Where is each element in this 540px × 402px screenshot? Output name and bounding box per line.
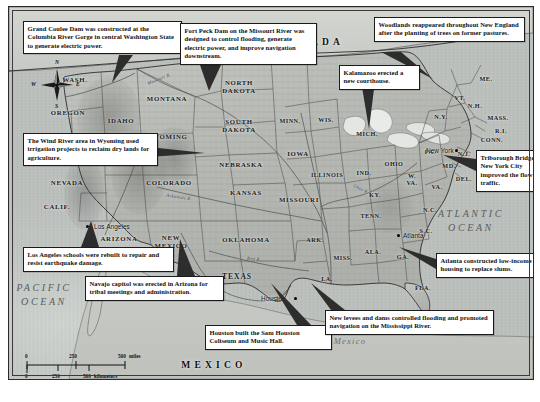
callout-kalamazoo: Kalamazoo erected a new courthouse. xyxy=(339,65,420,90)
callout-grand-coulee: Grand Coulee Dam was constructed at the … xyxy=(23,21,182,54)
scale-km-tick-250: 250 xyxy=(52,373,60,379)
scale-km-tick-0: 0 xyxy=(25,373,28,379)
compass-east-label: E xyxy=(76,81,80,87)
scale-miles-unit: miles xyxy=(129,353,141,359)
callout-mississippi-levees: New levees and dams controlled flooding … xyxy=(325,310,494,335)
callout-fort-peck: Fort Peck Dam on the Missouri River was … xyxy=(180,23,317,65)
scale-km-tick-500: 500 xyxy=(83,373,91,379)
callout-woodlands-new-england: Woodlands reappeared throughout New Engl… xyxy=(374,17,525,42)
compass-rose: N S W E xyxy=(31,59,83,111)
callout-navajo-capitol: Navajo capitol was erected in Arizona fo… xyxy=(85,276,224,301)
callout-atlanta: Atlanta constructed low-income housing t… xyxy=(436,253,534,278)
callout-houston: Houston built the Sam Houston Coliseum a… xyxy=(205,325,332,350)
compass-north-label: N xyxy=(55,59,59,65)
callout-los-angeles: Los Angeles schools were rebuilt to repa… xyxy=(23,247,174,272)
callout-triborough: Triborough Bridge in New York City impro… xyxy=(476,150,534,192)
map-figure: CANADAMEXICOPACIFIC OCEANATLANTIC OCEANG… xyxy=(0,0,540,402)
compass-south-label: S xyxy=(55,103,58,109)
scale-miles-tick-250: 250 xyxy=(69,353,77,359)
scale-miles-tick-0: 0 xyxy=(25,353,28,359)
scale-bar: 0 250 500 miles 0 250 500 kilometers xyxy=(23,353,149,380)
map-frame: CANADAMEXICOPACIFIC OCEANATLANTIC OCEANG… xyxy=(8,6,534,380)
callout-wind-river: The Wind River area in Wyoming used irri… xyxy=(23,133,158,166)
compass-west-label: W xyxy=(31,81,36,87)
scale-km-unit: kilometers xyxy=(94,373,117,379)
scale-miles-tick-500: 500 xyxy=(118,353,126,359)
